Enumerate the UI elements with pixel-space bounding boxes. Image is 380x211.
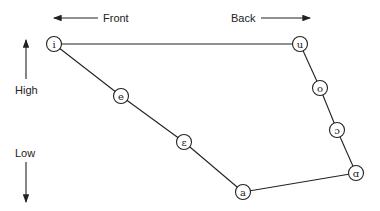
vowel-symbol: o <box>317 83 323 94</box>
vowel-chart: Front Back High Low iueoɛɔaɑ <box>0 0 380 211</box>
edge-epsilon-a <box>184 142 243 192</box>
vowel-symbol: ɔ <box>334 125 340 136</box>
vowel-node-a: a <box>236 185 251 200</box>
vowel-edges <box>54 44 356 192</box>
high-label: High <box>15 84 38 96</box>
vowel-symbol: i <box>52 39 55 50</box>
vowel-symbol: e <box>118 91 124 102</box>
vowel-node-o: o <box>313 81 328 96</box>
edge-i-e <box>54 44 121 96</box>
vowel-node-u: u <box>293 37 308 52</box>
vowel-symbol: a <box>240 187 246 198</box>
front-label: Front <box>103 12 129 24</box>
vowel-node-epsilon: ɛ <box>177 135 192 150</box>
edge-e-epsilon <box>121 96 184 142</box>
low-label: Low <box>15 147 35 159</box>
vowel-symbol: u <box>297 39 304 50</box>
vowel-node-open_o: ɔ <box>330 123 345 138</box>
vowel-symbol: ɑ <box>353 168 360 179</box>
vowel-symbol: ɛ <box>181 137 186 148</box>
vowel-node-i: i <box>47 37 62 52</box>
back-label: Back <box>231 12 256 24</box>
vowel-nodes: iueoɛɔaɑ <box>47 37 364 200</box>
vowel-node-e: e <box>114 89 129 104</box>
vowel-node-alpha: ɑ <box>349 166 364 181</box>
edge-a-alpha <box>243 173 356 192</box>
